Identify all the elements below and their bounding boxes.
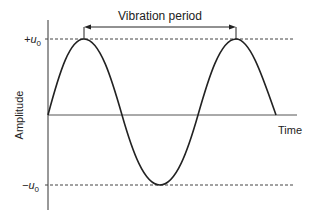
pos-amp-label: +u0 [24, 33, 42, 48]
amplitude-label: Amplitude [13, 91, 25, 140]
arrow-head-left [84, 25, 91, 30]
neg-amp-label: −u0 [22, 179, 40, 194]
vibration-diagram: Vibration period Time Amplitude +u0 −u0 [0, 0, 317, 217]
period-label: Vibration period [118, 9, 202, 23]
sine-curve [48, 39, 276, 185]
arrow-head-right [229, 25, 236, 30]
time-label: Time [278, 124, 302, 136]
